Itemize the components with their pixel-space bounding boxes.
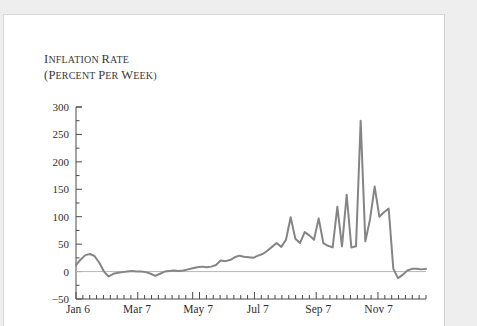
inflation-rate-chart: INFLATION RATE (PERCENT PER WEEK) −50050… [4,15,446,326]
x-tick-label: May 7 [183,303,213,316]
y-tick-label: 300 [53,101,70,113]
y-tick-label: 100 [53,211,70,223]
x-tick-label: Jul 7 [247,303,269,315]
figure-card: INFLATION RATE (PERCENT PER WEEK) −50050… [3,14,445,326]
y-axis [76,107,82,299]
x-axis [76,292,426,299]
y-tick-label: 0 [64,266,70,278]
inflation-rate-series-line [76,121,426,278]
page-background: INFLATION RATE (PERCENT PER WEEK) −50050… [0,0,477,326]
y-tick-label: 250 [53,128,70,140]
y-tick-label: 50 [58,238,70,250]
chart-title-primary: INFLATION RATE [44,52,129,66]
y-tick-label: 200 [53,156,70,168]
x-tick-label: Mar 7 [123,303,151,315]
x-tick-labels: Jan 6Mar 7May 7Jul 7Sep 7Nov 7 [66,303,393,316]
x-tick-label: Sep 7 [305,303,331,316]
chart-title-secondary: (PERCENT PER WEEK) [44,68,157,82]
x-tick-label: Nov 7 [364,303,393,315]
x-tick-label: Jan 6 [66,303,90,315]
y-tick-label: 150 [53,183,70,195]
y-tick-labels: −50050100150200250300 [52,101,70,305]
